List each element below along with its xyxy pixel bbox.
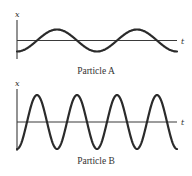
a-t-axis-label: t <box>181 37 185 46</box>
b-title: Particle B <box>77 156 115 166</box>
chart-particle-a: x t Particle A <box>15 10 185 76</box>
chart-particle-b: x t Particle B <box>15 79 185 166</box>
b-x-axis-label: x <box>15 79 20 88</box>
b-t-axis-label: t <box>181 118 185 127</box>
particle-graphs: x t Particle A x t Particle B <box>0 0 192 176</box>
a-x-axis-label: x <box>15 10 20 19</box>
a-title: Particle A <box>77 66 115 76</box>
